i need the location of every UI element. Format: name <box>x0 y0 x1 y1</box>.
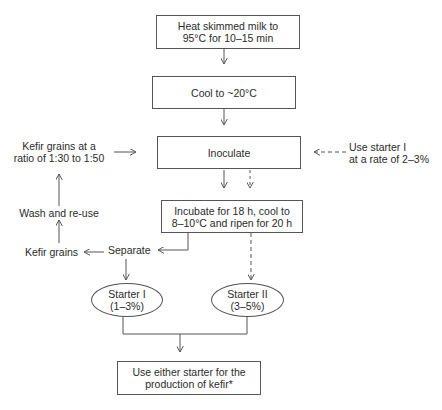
node-final: Use either starter for the production of… <box>117 361 261 395</box>
separate-label: Separate <box>108 244 151 256</box>
node-cool-label: Cool to ~20°C <box>191 87 257 99</box>
node-incubate: Incubate for 18 h, cool to 8–10°C and ri… <box>161 200 303 233</box>
node-kefir-grains: Kefir grains <box>25 246 78 258</box>
node-final-line-2: production of kefir* <box>132 378 245 390</box>
grains-ratio-line-1: Kefir grains at a <box>6 140 112 152</box>
kefir-grains-label: Kefir grains <box>25 246 78 258</box>
node-inoculate: Inoculate <box>157 136 301 169</box>
node-use-starter: Use starter I at a rate of 2–3% <box>349 141 429 165</box>
node-starter2-line-2: (3–5%) <box>231 300 265 312</box>
node-heat-line-2: 95°C for 10–15 min <box>178 32 278 44</box>
node-incubate-line-2: 8–10°C and ripen for 20 h <box>172 217 292 229</box>
node-grains-ratio: Kefir grains at a ratio of 1:30 to 1:50 <box>6 140 112 164</box>
node-starter1-line-1: Starter I <box>108 288 145 300</box>
node-starter2-line-1: Starter II <box>227 288 267 300</box>
node-inoculate-label: Inoculate <box>208 147 251 159</box>
grains-ratio-line-2: ratio of 1:30 to 1:50 <box>6 152 112 164</box>
node-separate: Separate <box>108 244 151 256</box>
node-heat-milk: Heat skimmed milk to 95°C for 10–15 min <box>156 15 300 49</box>
use-starter-line-2: at a rate of 2–3% <box>349 153 429 165</box>
kefir-flowchart: Heat skimmed milk to 95°C for 10–15 min … <box>0 0 442 410</box>
node-starter-2: Starter II (3–5%) <box>211 283 284 317</box>
node-starter1-line-2: (1–3%) <box>110 300 144 312</box>
node-cool: Cool to ~20°C <box>152 76 296 109</box>
node-final-line-1: Use either starter for the <box>132 366 245 378</box>
node-incubate-line-1: Incubate for 18 h, cool to <box>172 205 292 217</box>
use-starter-line-1: Use starter I <box>349 141 429 153</box>
node-heat-line-1: Heat skimmed milk to <box>178 20 278 32</box>
node-starter-1: Starter I (1–3%) <box>91 283 163 317</box>
arrow-incubate-to-separate <box>158 233 188 250</box>
connector-starters-merge <box>123 316 247 334</box>
wash-label: Wash and re-use <box>19 207 99 219</box>
node-wash-reuse: Wash and re-use <box>10 207 108 219</box>
